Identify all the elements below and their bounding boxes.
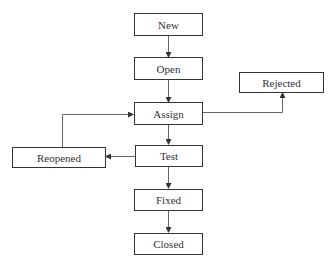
node-label: Test — [160, 150, 178, 162]
edge-reopened-assign — [63, 115, 134, 148]
bug-lifecycle-diagram: New Open Assign Test Fixed Closed Reject… — [0, 0, 336, 264]
edge-assign-rejected — [203, 93, 283, 113]
node-label: Rejected — [262, 77, 300, 89]
node-label: Open — [157, 63, 181, 75]
node-reopened: Reopened — [12, 147, 106, 168]
node-rejected: Rejected — [239, 72, 324, 93]
node-label: Closed — [153, 238, 184, 250]
node-new: New — [134, 13, 203, 36]
node-closed: Closed — [134, 233, 203, 255]
node-label: Fixed — [156, 194, 181, 206]
diagram-edges — [0, 0, 336, 264]
node-label: Reopened — [37, 152, 81, 164]
node-label: New — [158, 19, 179, 31]
node-assign: Assign — [134, 102, 203, 125]
node-open: Open — [134, 57, 203, 80]
node-test: Test — [135, 145, 203, 167]
node-label: Assign — [153, 108, 184, 120]
node-fixed: Fixed — [134, 189, 203, 211]
